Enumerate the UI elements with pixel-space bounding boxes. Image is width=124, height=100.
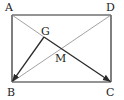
label-b: B — [7, 86, 15, 99]
geometry-diagram: A D B C G M — [0, 0, 124, 100]
label-d: D — [106, 1, 115, 14]
label-a: A — [4, 1, 14, 14]
label-m: M — [55, 52, 66, 65]
vector-gb — [13, 37, 44, 81]
label-g: G — [41, 25, 50, 38]
segment-ag — [12, 15, 44, 37]
vector-gc — [44, 37, 110, 81]
label-c: C — [106, 86, 114, 99]
